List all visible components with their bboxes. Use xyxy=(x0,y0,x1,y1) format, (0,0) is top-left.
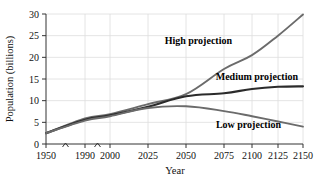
x-tick-label: 2000 xyxy=(100,150,120,161)
y-tick-label: 10 xyxy=(29,95,39,106)
x-tick-label: 2150 xyxy=(293,150,313,161)
x-tick-label: 2025 xyxy=(138,150,158,161)
chart-canvas: 051015202530 195019902000202520502075210… xyxy=(0,0,317,180)
population-projection-chart: 051015202530 195019902000202520502075210… xyxy=(0,0,317,180)
series-annotation-high-projection: High projection xyxy=(165,35,233,46)
y-tick-label: 15 xyxy=(29,74,39,85)
y-tick-label: 0 xyxy=(34,139,39,150)
x-tick-label: 2075 xyxy=(214,150,234,161)
series-annotation-low-projection: Low projection xyxy=(216,119,282,130)
x-tick-label: 2050 xyxy=(176,150,196,161)
x-tick-label: 1990 xyxy=(75,150,95,161)
x-tick-label: 1950 xyxy=(36,150,56,161)
series-annotation-medium-projection: Medium projection xyxy=(216,71,299,82)
x-axis-title: Year xyxy=(165,165,185,176)
y-tick-label: 30 xyxy=(29,9,39,20)
y-tick-label: 25 xyxy=(29,30,39,41)
x-tick-label: 2100 xyxy=(242,150,262,161)
x-tick-label: 2125 xyxy=(268,150,288,161)
y-tick-label: 20 xyxy=(29,52,39,63)
y-axis-title: Population (billions) xyxy=(4,35,16,122)
y-tick-label: 5 xyxy=(34,117,39,128)
